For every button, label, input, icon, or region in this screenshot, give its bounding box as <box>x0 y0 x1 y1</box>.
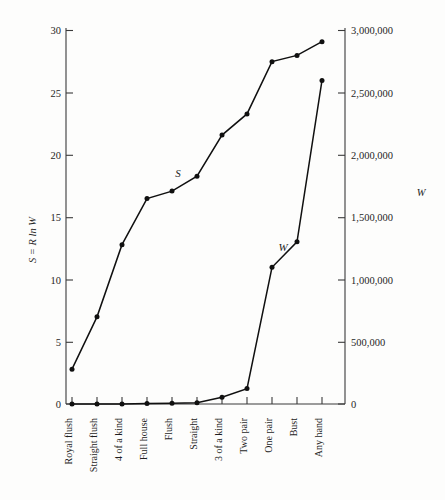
series-line-S <box>72 42 322 369</box>
x-axis-label-3: Full house <box>138 417 149 460</box>
x-axis-label-7: Two pair <box>238 417 249 453</box>
x-axis-label-10: Any hand <box>313 418 324 457</box>
left-tick-label-25: 25 <box>51 88 62 99</box>
x-axis-label-9: Bust <box>288 418 299 437</box>
data-point-S-3 <box>145 196 150 201</box>
right-tick-label-2000000: 2,000,000 <box>351 150 393 161</box>
data-point-S-4 <box>170 189 175 194</box>
x-axis-label-8: One pair <box>263 417 274 452</box>
data-point-S-2 <box>120 242 125 247</box>
x-axis-label-5: Straight <box>188 418 199 450</box>
x-axis-label-6: 3 of a kind <box>213 418 224 461</box>
chart-svg: 30 25 20 15 10 5 0 3,000,000 2,500,000 2… <box>0 0 445 500</box>
left-tick-label-0: 0 <box>56 399 61 410</box>
left-tick-label-20: 20 <box>51 150 62 161</box>
data-point-W-6 <box>220 395 225 400</box>
data-point-S-7 <box>245 111 250 116</box>
left-tick-label-30: 30 <box>51 25 62 36</box>
right-tick-label-1500000: 1,500,000 <box>351 212 393 223</box>
data-point-S-10 <box>320 39 325 44</box>
data-point-S-1 <box>95 314 100 319</box>
right-tick-label-0: 0 <box>351 399 356 410</box>
x-axis-label-1: Straight flush <box>88 418 99 472</box>
series-annotation-S: S <box>175 167 181 179</box>
data-point-W-8 <box>270 265 275 270</box>
right-axis-ticks: 3,000,000 2,500,000 2,000,000 1,500,000 … <box>338 25 393 410</box>
data-point-W-9 <box>295 239 300 244</box>
left-axis-title: S = R ln W <box>27 216 38 263</box>
data-point-S-8 <box>270 59 275 64</box>
annotation-layer: SW <box>175 167 288 253</box>
left-tick-label-5: 5 <box>56 337 61 348</box>
data-point-W-3 <box>145 401 150 406</box>
data-point-W-0 <box>70 402 75 407</box>
series-annotation-W: W <box>278 241 288 253</box>
series-layer <box>70 39 325 406</box>
x-axis-label-4: Flush <box>163 418 174 440</box>
left-tick-label-15: 15 <box>51 212 62 223</box>
data-point-S-9 <box>295 53 300 58</box>
right-tick-label-2500000: 2,500,000 <box>351 88 393 99</box>
data-point-S-6 <box>220 133 225 138</box>
data-point-W-1 <box>95 402 100 407</box>
data-point-W-5 <box>195 400 200 405</box>
chart-figure: 30 25 20 15 10 5 0 3,000,000 2,500,000 2… <box>0 0 445 500</box>
data-point-S-5 <box>195 174 200 179</box>
data-point-W-7 <box>245 386 250 391</box>
data-point-W-2 <box>120 401 125 406</box>
left-tick-label-10: 10 <box>51 275 62 286</box>
x-axis-label-0: Royal flush <box>63 418 74 464</box>
x-axis-labels: Royal flushStraight flush4 of a kindFull… <box>63 417 324 472</box>
data-point-W-4 <box>170 401 175 406</box>
right-tick-label-1000000: 1,000,000 <box>351 275 393 286</box>
x-axis-label-2: 4 of a kind <box>113 418 124 461</box>
right-tick-label-500000: 500,000 <box>351 337 385 348</box>
data-point-W-10 <box>320 78 325 83</box>
data-point-S-0 <box>70 367 75 372</box>
right-axis-title: W <box>417 187 427 198</box>
right-tick-label-3000000: 3,000,000 <box>351 25 393 36</box>
left-axis-ticks: 30 25 20 15 10 5 0 <box>51 25 74 410</box>
